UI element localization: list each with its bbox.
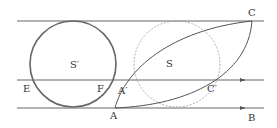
label-E: E: [23, 84, 30, 94]
circle-S-dashed: [134, 21, 220, 107]
label-B: B: [248, 113, 255, 123]
label-C: C: [248, 8, 256, 18]
label-F: F: [97, 84, 104, 94]
label-S-prime: S′: [70, 60, 79, 70]
curve-A-to-C-lower: [115, 21, 252, 108]
geometry-figure: [0, 0, 277, 128]
label-A-prime: A′: [118, 86, 128, 96]
diagram-canvas: S′ S E F A′ A C C′ B: [0, 0, 277, 128]
label-S: S: [166, 59, 173, 69]
curve-A-to-C-upper: [115, 21, 252, 108]
label-A: A: [110, 111, 117, 121]
label-C-prime: C′: [207, 84, 217, 94]
